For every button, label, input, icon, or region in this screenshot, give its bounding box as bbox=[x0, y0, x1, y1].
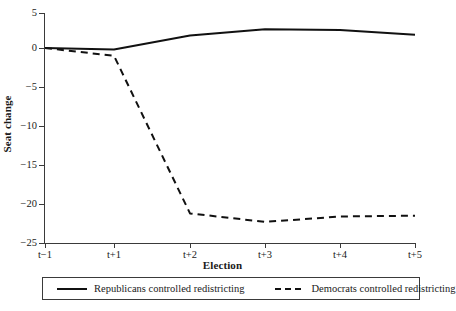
y-tick-mark bbox=[39, 126, 45, 127]
x-tick-mark bbox=[114, 243, 115, 248]
legend-item-democrats: Democrats controlled redistricting bbox=[274, 283, 455, 294]
x-tick-label: t+4 bbox=[320, 249, 360, 261]
y-tick-label: 0 bbox=[11, 43, 37, 53]
x-axis-line bbox=[44, 243, 416, 244]
x-tick-label: t−1 bbox=[25, 249, 65, 261]
dashed-line-swatch-icon bbox=[274, 284, 304, 293]
x-tick-label: t+5 bbox=[395, 249, 435, 261]
legend-label-democrats: Democrats controlled redistricting bbox=[311, 283, 455, 294]
x-tick-mark bbox=[415, 243, 416, 248]
y-tick-mark bbox=[39, 87, 45, 88]
solid-line-swatch-icon bbox=[57, 284, 87, 293]
y-tick-label: −5 bbox=[11, 82, 37, 92]
x-tick-mark bbox=[45, 243, 46, 248]
legend-item-republicans: Republicans controlled redistricting bbox=[57, 283, 244, 294]
y-tick-label: −15 bbox=[11, 160, 37, 170]
y-tick-label: −10 bbox=[11, 121, 37, 131]
x-axis-title: Election bbox=[120, 259, 325, 271]
y-tick-label: −20 bbox=[11, 199, 37, 209]
series-line-republicans bbox=[45, 29, 415, 49]
y-tick-label: −25 bbox=[11, 238, 37, 248]
chart-legend: Republicans controlled redistricting Dem… bbox=[42, 277, 420, 300]
legend-label-republicans: Republicans controlled redistricting bbox=[94, 283, 244, 294]
series-line-democrats bbox=[45, 48, 415, 222]
x-tick-mark bbox=[340, 243, 341, 248]
y-tick-mark bbox=[39, 13, 45, 14]
x-tick-mark bbox=[265, 243, 266, 248]
y-tick-mark bbox=[39, 165, 45, 166]
y-tick-mark bbox=[39, 204, 45, 205]
y-tick-mark bbox=[39, 48, 45, 49]
y-tick-label: 5 bbox=[11, 8, 37, 18]
x-tick-mark bbox=[190, 243, 191, 248]
